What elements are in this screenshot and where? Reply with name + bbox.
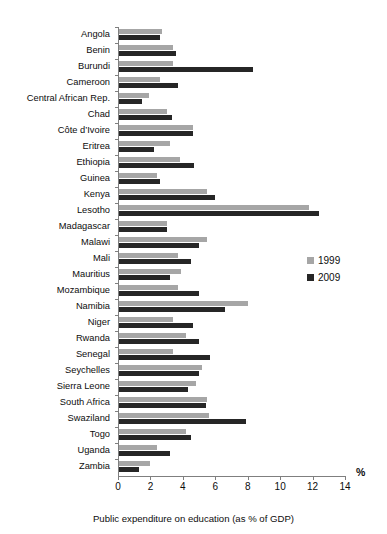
category-axis-line bbox=[118, 27, 119, 476]
bar-row: Niger bbox=[118, 315, 345, 331]
bar-row: Madagascar bbox=[118, 219, 345, 235]
legend-swatch-icon-1999 bbox=[307, 257, 314, 264]
bar-2009 bbox=[118, 179, 160, 184]
bar-2009 bbox=[118, 387, 188, 392]
bar-row: Rwanda bbox=[118, 331, 345, 347]
bar-2009 bbox=[118, 195, 215, 200]
value-axis-tick-label: 12 bbox=[307, 482, 318, 492]
bar-1999 bbox=[118, 109, 167, 114]
value-axis-tick bbox=[313, 476, 314, 480]
value-axis-tick-label: 14 bbox=[339, 482, 350, 492]
category-label: Sierra Leone bbox=[57, 382, 110, 391]
legend-swatch-icon-2009 bbox=[307, 274, 314, 281]
bar-2009 bbox=[118, 67, 253, 72]
bar-row: Uganda bbox=[118, 443, 345, 459]
category-label: Uganda bbox=[77, 446, 110, 455]
bar-2009 bbox=[118, 163, 194, 168]
bar-1999 bbox=[118, 237, 207, 242]
bar-row: Benin bbox=[118, 43, 345, 59]
bar-row: Malawi bbox=[118, 235, 345, 251]
bar-row: Ethiopia bbox=[118, 155, 345, 171]
category-label: Togo bbox=[90, 430, 110, 439]
bar-1999 bbox=[118, 333, 186, 338]
bar-1999 bbox=[118, 413, 209, 418]
bar-2009 bbox=[118, 355, 210, 360]
bar-row: Kenya bbox=[118, 187, 345, 203]
category-label: Kenya bbox=[84, 190, 110, 199]
bar-2009 bbox=[118, 51, 176, 56]
bar-row: Zambia bbox=[118, 459, 345, 475]
bar-2009 bbox=[118, 371, 199, 376]
bar-2009 bbox=[118, 99, 142, 104]
bar-1999 bbox=[118, 189, 207, 194]
plot-area: AngolaBeninBurundiCameroonCentral Africa… bbox=[118, 27, 345, 475]
bar-row: Sierra Leone bbox=[118, 379, 345, 395]
category-label: Burundi bbox=[78, 62, 110, 71]
legend-label-1999: 1999 bbox=[318, 256, 340, 266]
bar-1999 bbox=[118, 157, 180, 162]
bar-2009 bbox=[118, 115, 172, 120]
value-axis-tick bbox=[183, 476, 184, 480]
category-label: Central African Rep. bbox=[27, 94, 110, 103]
bar-1999 bbox=[118, 349, 173, 354]
bar-1999 bbox=[118, 93, 149, 98]
bar-row: Namibia bbox=[118, 299, 345, 315]
bar-1999 bbox=[118, 317, 173, 322]
value-axis-tick-label: 4 bbox=[180, 482, 186, 492]
category-label: Benin bbox=[86, 46, 110, 55]
category-label: Zambia bbox=[79, 462, 110, 471]
category-label: Niger bbox=[88, 318, 110, 327]
bar-2009 bbox=[118, 339, 199, 344]
value-axis-tick bbox=[150, 476, 151, 480]
bar-1999 bbox=[118, 445, 157, 450]
value-axis-tick bbox=[345, 476, 346, 480]
bar-2009 bbox=[118, 291, 199, 296]
bar-row: Senegal bbox=[118, 347, 345, 363]
value-axis-tick-label: 6 bbox=[213, 482, 219, 492]
value-axis-tick bbox=[118, 476, 119, 480]
bar-2009 bbox=[118, 451, 170, 456]
category-label: Malawi bbox=[81, 238, 110, 247]
category-label: Mali bbox=[93, 254, 110, 263]
bar-1999 bbox=[118, 221, 167, 226]
bar-rows: AngolaBeninBurundiCameroonCentral Africa… bbox=[118, 27, 345, 475]
bar-row: Côte d’Ivoire bbox=[118, 123, 345, 139]
bar-row: South Africa bbox=[118, 395, 345, 411]
category-label: Côte d’Ivoire bbox=[58, 126, 110, 135]
category-label: Rwanda bbox=[76, 334, 110, 343]
bar-row: Swaziland bbox=[118, 411, 345, 427]
bar-2009 bbox=[118, 403, 206, 408]
bar-2009 bbox=[118, 147, 154, 152]
bar-1999 bbox=[118, 381, 196, 386]
bar-1999 bbox=[118, 285, 178, 290]
bar-1999 bbox=[118, 29, 162, 34]
bar-1999 bbox=[118, 365, 202, 370]
legend-item-2009: 2009 bbox=[307, 269, 340, 286]
value-axis-tick-label: 10 bbox=[275, 482, 286, 492]
value-axis-tick bbox=[215, 476, 216, 480]
bar-2009 bbox=[118, 467, 139, 472]
category-label: Madagascar bbox=[59, 222, 110, 231]
category-label: Swaziland bbox=[68, 414, 110, 423]
legend-item-1999: 1999 bbox=[307, 252, 340, 269]
bar-2009 bbox=[118, 435, 191, 440]
category-label: Ethiopia bbox=[76, 158, 110, 167]
category-label: Seychelles bbox=[65, 366, 110, 375]
bar-row: Togo bbox=[118, 427, 345, 443]
bar-row: Guinea bbox=[118, 171, 345, 187]
bar-row: Central African Rep. bbox=[118, 91, 345, 107]
bar-1999 bbox=[118, 205, 309, 210]
bar-1999 bbox=[118, 269, 181, 274]
category-label: Angola bbox=[81, 30, 110, 39]
bar-2009 bbox=[118, 211, 319, 216]
bar-1999 bbox=[118, 397, 207, 402]
bar-1999 bbox=[118, 461, 150, 466]
bar-2009 bbox=[118, 419, 246, 424]
category-label: Mauritius bbox=[72, 270, 110, 279]
value-axis-tick-label: 2 bbox=[148, 482, 154, 492]
value-axis-tick-label: 8 bbox=[245, 482, 251, 492]
category-label: Chad bbox=[88, 110, 110, 119]
value-axis-tick bbox=[280, 476, 281, 480]
bar-row: Cameroon bbox=[118, 75, 345, 91]
bar-2009 bbox=[118, 243, 199, 248]
